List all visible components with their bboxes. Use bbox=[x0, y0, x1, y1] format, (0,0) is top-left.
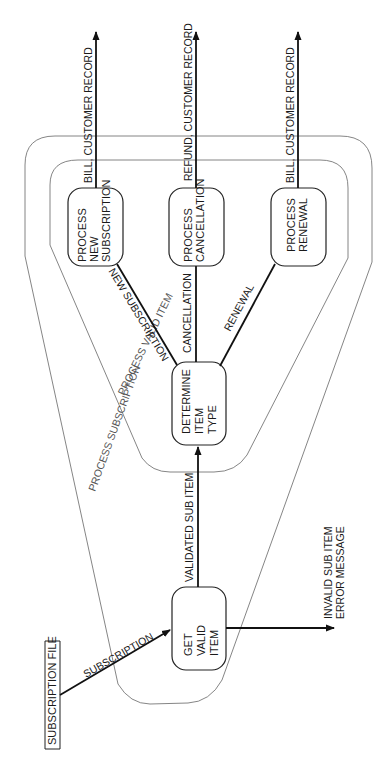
boundary-label-process-valid-item: PROCESS VALID ITEM bbox=[115, 291, 175, 397]
process-label-line: GET bbox=[182, 633, 194, 656]
process-label-line: NEW bbox=[88, 236, 100, 262]
process-label-line: TYPE bbox=[206, 405, 218, 434]
flow-label-out-new: BILL, CUSTOMER RECORD bbox=[82, 47, 94, 183]
process-label-line: PROCESS bbox=[182, 208, 194, 262]
flow-label-validated-sub-item: VALIDATED SUB ITEM bbox=[183, 473, 195, 582]
process-label-line: CANCELLATION bbox=[194, 178, 206, 262]
flow-label-subscription: SUBSCRIPTION bbox=[81, 630, 155, 680]
process-label-line: PROCESS bbox=[76, 208, 88, 262]
process-label-line: ITEM bbox=[193, 408, 205, 434]
flow-label-cancellation: CANCELLATION bbox=[181, 273, 193, 353]
process-label-line: VALID bbox=[195, 625, 207, 656]
flow-label-out-renewal: BILL, CUSTOMER RECORD bbox=[284, 47, 296, 183]
process-label-line: PROCESS bbox=[285, 198, 297, 252]
external-entity-subscription-file[interactable]: SUBSCRIPTION FILE bbox=[45, 636, 60, 749]
process-cancellation[interactable]: PROCESS CANCELLATION bbox=[169, 178, 224, 266]
external-entity-label: SUBSCRIPTION FILE bbox=[46, 636, 58, 745]
process-get-valid-item[interactable]: GET VALID ITEM bbox=[172, 587, 226, 670]
boundary-label-process-subscription: PROCESS SUBSCRIPTION bbox=[86, 364, 143, 493]
process-label-line: SUBSCRIPTION bbox=[100, 179, 112, 262]
process-new-subscription[interactable]: PROCESS NEW SUBSCRIPTION bbox=[68, 179, 123, 266]
flow-label-invalid-line1: INVALID SUB ITEM bbox=[322, 526, 334, 619]
flow-label-invalid-line2: ERROR MESSAGE bbox=[334, 526, 346, 619]
process-label-line: ITEM bbox=[208, 630, 220, 656]
data-flow-diagram: PROCESS SUBSCRIPTION PROCESS VALID ITEM … bbox=[0, 0, 389, 779]
process-determine-item-type[interactable]: DETERMINE ITEM TYPE bbox=[172, 362, 226, 445]
process-label-line: RENEWAL bbox=[297, 198, 309, 252]
process-renewal[interactable]: PROCESS RENEWAL bbox=[271, 188, 326, 266]
flow-label-out-cancel: REFUND, CUSTOMER RECORD bbox=[182, 23, 194, 181]
process-label-line: DETERMINE bbox=[180, 369, 192, 434]
